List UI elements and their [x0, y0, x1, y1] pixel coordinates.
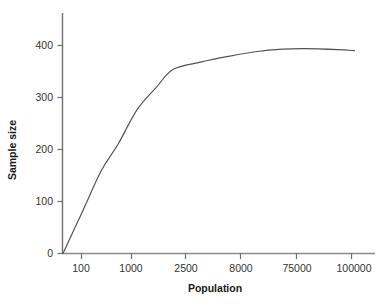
y-tick-label-0: 0 [47, 247, 53, 259]
x-axis-title: Population [188, 282, 242, 294]
y-axis-ticks [58, 46, 63, 254]
data-series-line [63, 49, 355, 254]
x-tick-label-100: 100 [72, 262, 90, 274]
x-tick-label-75000: 75000 [282, 262, 311, 274]
line-chart: 0 100 200 300 400 100 1000 2500 8000 750… [0, 0, 385, 304]
y-axis-title: Sample size [6, 120, 18, 180]
x-axis-ticks [82, 254, 352, 260]
y-tick-label-300: 300 [35, 91, 53, 103]
y-tick-label-400: 400 [35, 39, 53, 51]
chart-container: 0 100 200 300 400 100 1000 2500 8000 750… [0, 0, 385, 304]
y-tick-label-200: 200 [35, 143, 53, 155]
y-axis-tick-labels: 0 100 200 300 400 [35, 39, 53, 259]
y-tick-label-100: 100 [35, 195, 53, 207]
x-axis-tick-labels: 100 1000 2500 8000 75000 100000 [72, 262, 371, 274]
x-tick-label-1000: 1000 [119, 262, 143, 274]
x-tick-label-8000: 8000 [229, 262, 253, 274]
x-tick-label-2500: 2500 [174, 262, 198, 274]
x-tick-label-100000: 100000 [336, 262, 371, 274]
